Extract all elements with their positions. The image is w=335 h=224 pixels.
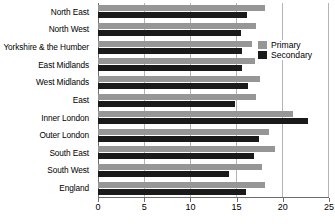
bar-group [98,74,328,92]
y-axis-label-row: Yorkshire & the Humber [0,38,93,56]
bar-secondary [98,65,242,71]
x-tick-label: 25 [324,203,334,212]
primary-swatch-icon [258,41,267,49]
bar-primary [98,129,269,135]
y-axis-label: West Midlands [36,78,89,86]
bar-primary [98,146,275,152]
y-axis-label-row: England [0,179,93,197]
y-axis-label: Inner London [41,114,89,122]
y-axis-label: Outer London [39,131,89,139]
secondary-swatch-icon [258,51,267,59]
bar-groups [98,3,328,197]
bar-primary [98,111,293,117]
bar-primary [98,94,256,100]
y-axis-category-labels: North EastNorth WestYorkshire & the Humb… [0,3,93,197]
y-axis-label: South West [47,166,89,174]
y-axis-label: South East [49,149,89,157]
gridline-25 [328,3,329,197]
y-axis-label-row: South East [0,144,93,162]
bar-secondary [98,153,254,159]
bar-primary [98,41,252,47]
y-axis-label-row: North West [0,21,93,39]
bar-primary [98,23,256,29]
bar-chart: North EastNorth WestYorkshire & the Humb… [0,0,335,224]
y-axis-label-row: East Midlands [0,56,93,74]
bar-group [98,3,328,21]
bar-secondary [98,189,246,195]
bar-group [98,126,328,144]
legend-label: Secondary [271,51,312,60]
y-axis-label-row: East [0,91,93,109]
bar-primary [98,58,255,64]
bar-primary [98,5,265,11]
x-tick-label: 10 [185,203,195,212]
legend-entry-primary[interactable]: Primary [258,41,312,50]
y-axis-label: North East [51,8,89,16]
legend-entry-secondary[interactable]: Secondary [258,51,312,60]
chart-legend: PrimarySecondary [256,40,314,60]
y-axis-label: England [59,184,89,192]
x-tick-label: 0 [95,203,100,212]
bar-secondary [98,101,235,107]
bar-group [98,179,328,197]
y-axis-label: East [73,96,89,104]
bar-secondary [98,83,248,89]
bar-secondary [98,48,242,54]
bar-secondary [98,30,241,36]
bar-primary [98,76,260,82]
bar-secondary [98,171,229,177]
legend-label: Primary [271,41,301,50]
x-tick-label: 15 [232,203,242,212]
bar-secondary [98,12,247,18]
plot-area [98,3,328,197]
bar-group [98,162,328,180]
x-tick-label: 20 [278,203,288,212]
y-axis-label: North West [49,25,89,33]
bar-primary [98,164,262,170]
bar-group [98,109,328,127]
bar-group [98,21,328,39]
bar-secondary [98,118,308,124]
y-axis-label-row: Inner London [0,109,93,127]
bar-secondary [98,136,259,142]
y-axis-label-row: North East [0,3,93,21]
y-axis-label-row: Outer London [0,126,93,144]
x-tick-label: 5 [142,203,147,212]
y-axis-label-row: South West [0,162,93,180]
bar-group [98,91,328,109]
bar-group [98,144,328,162]
y-axis-label: East Midlands [38,61,89,69]
bar-primary [98,182,265,188]
y-axis-label-row: West Midlands [0,74,93,92]
y-axis-label: Yorkshire & the Humber [3,43,89,51]
x-axis-tick-labels: 0510152025 [98,203,329,217]
